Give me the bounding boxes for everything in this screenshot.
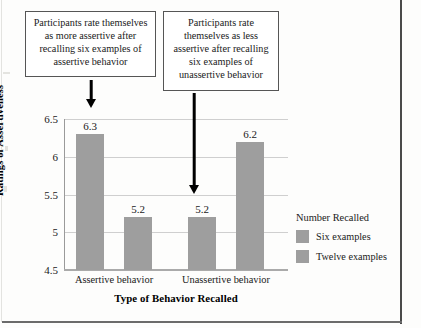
callout-box-unassertive: Participants rate themselves as less ass…: [163, 11, 279, 91]
arrow-head: [189, 185, 199, 194]
callout-line: assertive behavior: [29, 55, 152, 68]
bar-value-label: 5.2: [195, 203, 209, 215]
bar-unassertive-six[interactable]: [188, 217, 216, 270]
x-axis-title: Type of Behavior Recalled: [114, 292, 238, 304]
legend-label: Twelve examples: [316, 251, 387, 262]
arrow-shaft: [193, 93, 196, 186]
callout-line: assertive after recalling: [167, 42, 275, 55]
x-tick-label-unassertive: Unassertive behavior: [182, 274, 270, 285]
bar-unassertive-twelve[interactable]: [236, 142, 264, 270]
legend-label: Six examples: [316, 231, 371, 242]
legend-title: Number Recalled: [296, 212, 396, 223]
y-tick-label: 5.5: [18, 189, 58, 201]
callout-box-assertive: Participants rate themselves as more ass…: [25, 11, 156, 77]
callout-line: recalling six examples of: [29, 42, 152, 55]
y-tick-label: 4.5: [18, 264, 58, 276]
plot-area: [64, 119, 288, 270]
callout-line: Participants rate themselves: [29, 16, 152, 29]
y-tick-label: 6.5: [18, 113, 58, 125]
page-border-bottom: [2, 321, 402, 323]
arrow-shaft: [90, 80, 93, 100]
callout-line: themselves as less: [167, 29, 275, 42]
bar-assertive-twelve[interactable]: [124, 217, 152, 270]
y-axis-line: [64, 119, 65, 270]
page-border-right: [400, 0, 402, 324]
legend-item-twelve-examples[interactable]: Twelve examples: [296, 250, 396, 263]
gridline: [64, 119, 288, 120]
figure-page: 6.5 6 5.5 5 4.5 Ratings of Assertiveness…: [0, 0, 421, 328]
y-axis-title: Ratings of Assertiveness: [0, 85, 5, 196]
callout-arrow-unassertive-icon: [187, 93, 201, 195]
arrow-head: [86, 99, 96, 108]
x-tick-label-assertive: Assertive behavior: [75, 274, 153, 285]
bar-value-label: 5.2: [131, 203, 145, 215]
legend-swatch-icon: [296, 230, 309, 243]
callout-line: as more assertive after: [29, 29, 152, 42]
legend-swatch-icon: [296, 250, 309, 263]
callout-line: six examples of: [167, 55, 275, 68]
callout-arrow-assertive-icon: [84, 80, 98, 109]
legend: Number Recalled Six examples Twelve exam…: [296, 212, 396, 270]
legend-item-six-examples[interactable]: Six examples: [296, 230, 396, 243]
y-tick-label: 5: [18, 226, 58, 238]
bar-value-label: 6.3: [83, 120, 97, 132]
callout-line: Participants rate: [167, 16, 275, 29]
bar-assertive-six[interactable]: [76, 134, 104, 270]
callout-line: unassertive behavior: [167, 68, 275, 81]
bar-value-label: 6.2: [243, 128, 257, 140]
y-tick-label: 6: [18, 151, 58, 163]
